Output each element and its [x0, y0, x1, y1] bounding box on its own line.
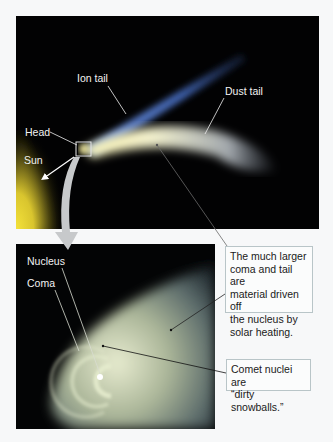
comet-head-illustration: [16, 244, 215, 429]
callout-line: Comet nuclei are: [231, 363, 306, 388]
label-sun: Sun: [24, 154, 43, 166]
callout-line: “dirty snowballs.”: [231, 388, 306, 413]
callout-line: material driven off: [230, 288, 308, 313]
comet-overview-illustration: [16, 16, 319, 229]
label-ion-tail: Ion tail: [77, 72, 108, 84]
callout-line: solar heating.: [230, 326, 308, 339]
comet-overview-panel: [16, 16, 319, 229]
label-head: Head: [25, 126, 50, 138]
callout-line: the nucleus by: [230, 313, 308, 326]
callout-coma-tail: The much larger coma and tail are materi…: [225, 246, 313, 313]
comet-head: [79, 144, 89, 154]
label-nucleus: Nucleus: [27, 255, 65, 267]
nucleus: [97, 374, 103, 380]
sun: [16, 126, 66, 229]
label-coma: Coma: [27, 277, 55, 289]
comet-head-detail-panel: [16, 244, 215, 429]
callout-line: The much larger: [230, 250, 308, 263]
callout-line: coma and tail are: [230, 263, 308, 288]
callout-dirty-snowballs: Comet nuclei are “dirty snowballs.”: [226, 359, 311, 391]
label-dust-tail: Dust tail: [225, 85, 263, 97]
